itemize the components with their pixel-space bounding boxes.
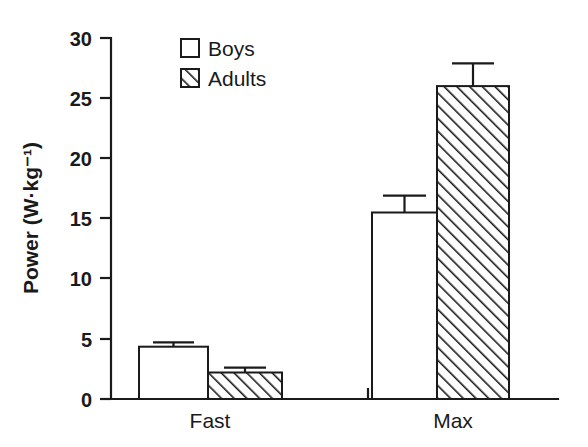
y-tick-label-25: 25 xyxy=(70,88,92,110)
errorbar-max-boys xyxy=(383,196,426,213)
bar-group-max xyxy=(372,63,509,399)
bar-chart-figure: 30 25 20 15 10 5 0 Power (W·kg⁻¹) Fast M… xyxy=(0,0,588,447)
chart-legend: Boys Adults xyxy=(181,37,266,90)
y-axis: 30 25 20 15 10 5 0 Power (W·kg⁻¹) xyxy=(19,28,111,411)
legend-item-boys[interactable]: Boys xyxy=(181,37,255,60)
bar-group-fast xyxy=(139,342,282,399)
legend-label-boys: Boys xyxy=(208,37,255,60)
y-tick-label-30: 30 xyxy=(70,28,92,50)
y-tick-label-15: 15 xyxy=(70,208,92,230)
legend-label-adults: Adults xyxy=(208,67,266,90)
bar-max-adults[interactable] xyxy=(437,86,509,399)
y-tick-label-20: 20 xyxy=(70,148,92,170)
y-tick-label-10: 10 xyxy=(70,268,92,290)
bar-max-boys[interactable] xyxy=(372,213,437,400)
y-tick-label-0: 0 xyxy=(81,389,92,411)
y-tick-label-5: 5 xyxy=(81,329,92,351)
x-tick-label-fast: Fast xyxy=(190,409,231,432)
bar-fast-adults[interactable] xyxy=(208,373,282,400)
legend-item-adults[interactable]: Adults xyxy=(181,67,266,90)
chart-canvas: 30 25 20 15 10 5 0 Power (W·kg⁻¹) Fast M… xyxy=(0,0,588,447)
x-tick-label-max: Max xyxy=(433,409,473,432)
y-axis-ticks xyxy=(100,38,111,399)
legend-swatch-hatched-square-icon xyxy=(181,69,199,87)
y-axis-title: Power (W·kg⁻¹) xyxy=(19,142,42,294)
y-axis-tick-labels: 30 25 20 15 10 5 0 xyxy=(70,28,92,411)
legend-swatch-open-square-icon xyxy=(181,39,199,57)
errorbar-max-adults xyxy=(452,63,494,86)
bar-fast-boys[interactable] xyxy=(139,347,208,399)
